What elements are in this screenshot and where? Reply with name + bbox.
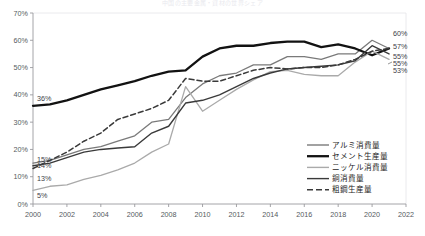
y-axis-tick-label: 40% (14, 90, 29, 99)
end-value-label-3: 55% (393, 59, 408, 68)
legend-label-3[interactable]: 銅消費量 (332, 173, 364, 183)
start-value-label-4: 13% (37, 174, 52, 183)
x-axis-tick-label: 2010 (195, 210, 211, 219)
leader-tick (388, 62, 392, 64)
x-axis-tick-label: 2014 (262, 210, 278, 219)
legend-label-4[interactable]: 粗鋼生産量 (332, 184, 372, 194)
x-axis-tick-label: 2012 (228, 210, 244, 219)
y-axis-tick-label: 30% (14, 118, 29, 127)
start-value-label-2: 5% (37, 191, 48, 200)
line-chart: 中国の主要金属・資材の世界シェア 0%10%20%30%40%50%60%70%… (0, 0, 425, 236)
legend-label-0[interactable]: アルミ消費量 (332, 140, 380, 150)
legend-label-1[interactable]: セメント生産量 (332, 151, 388, 161)
y-axis-tick-label: 20% (14, 145, 29, 154)
x-axis-tick-label: 2008 (161, 210, 177, 219)
y-axis-tick-label: 50% (14, 63, 29, 72)
x-axis-tick-label: 2004 (93, 210, 109, 219)
chart-legend: アルミ消費量セメント生産量ニッケル消費量銅消費量粗鋼生産量 (307, 140, 388, 195)
y-axis-tick-label: 10% (14, 172, 29, 181)
series-line-1 (33, 42, 389, 106)
x-axis-tick-label: 2022 (398, 210, 414, 219)
start-value-label-3: 14% (37, 161, 52, 170)
start-value-label-1: 36% (37, 94, 52, 103)
series-line-4 (33, 48, 389, 168)
legend-label-2[interactable]: ニッケル消費量 (332, 162, 388, 172)
y-axis-tick-label: 60% (14, 36, 29, 45)
x-axis-tick-label: 2000 (25, 210, 41, 219)
end-value-label-0: 57% (393, 42, 408, 51)
x-axis-tick-label: 2006 (127, 210, 143, 219)
x-axis-tick-label: 2016 (296, 210, 312, 219)
chart-canvas: 0%10%20%30%40%50%60%70%20002002200420062… (0, 0, 425, 236)
y-axis-tick-label: 70% (14, 9, 29, 18)
chart-title: 中国の主要金属・資材の世界シェア (0, 0, 425, 7)
x-axis-tick-label: 2002 (59, 210, 75, 219)
y-axis-tick-label: 0% (18, 200, 29, 209)
end-value-label-4: 60% (393, 29, 408, 38)
x-axis-tick-label: 2018 (330, 210, 346, 219)
x-axis-tick-label: 2020 (364, 210, 380, 219)
